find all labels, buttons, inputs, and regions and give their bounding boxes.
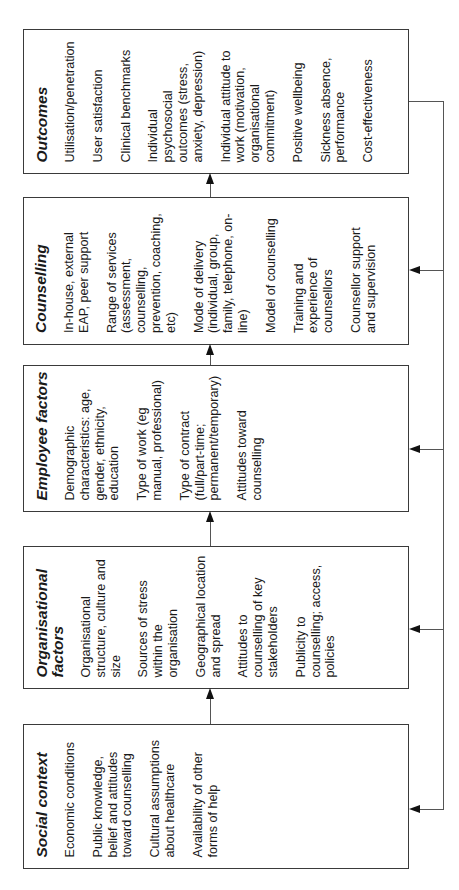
employee-factors-content: Employee factors Demographic characteris… (23, 365, 409, 512)
employee-factors-item: Attitudes toward counselling (234, 373, 264, 500)
outcomes-item: Clinical benchmarks (118, 37, 133, 162)
counselling-item: Range of services (assessment, counselli… (105, 205, 179, 333)
outcomes-item: Individual attitude to work (motivation,… (218, 37, 277, 162)
arrowhead-up-icon (206, 688, 214, 699)
organisational-factors-item: Organisational structure, culture and si… (78, 554, 122, 677)
employee-factors-title: Employee factors (33, 373, 49, 500)
arrowhead-left-icon (409, 805, 420, 813)
outcomes-item: User satisfaction (90, 37, 105, 162)
arrowhead-left-icon (409, 625, 420, 633)
organisational-factors-title: Organisational factors (33, 577, 65, 677)
social-context-item: Availability of other forms of help (190, 732, 220, 857)
outcomes-item: Cost-effectiveness (360, 37, 375, 162)
feedback-edge-to-organisational (419, 629, 444, 630)
social-context-box: Social context Economic conditions Publi… (23, 724, 409, 869)
edge-organisational-to-employee (210, 520, 211, 546)
social-context-item: Public knowledge, belief and attitudes t… (90, 732, 134, 857)
feedback-edge-to-employee (419, 449, 444, 450)
arrowhead-up-icon (206, 511, 214, 522)
counselling-item: Model of counselling (264, 205, 279, 333)
counselling-item: In-house, external EAP, peer support (62, 205, 92, 333)
organisational-factors-item: Sources of stress within the organisatio… (135, 554, 179, 677)
organisational-factors-box: Organisational factors Organisational st… (23, 546, 409, 689)
organisational-factors-item: Geographical location and spread (193, 554, 223, 677)
counselling-item: Training and experience of counsellors (292, 205, 336, 333)
organisational-factors-content: Organisational factors Organisational st… (23, 546, 409, 689)
counselling-item: Counsellor support and supervision (349, 205, 379, 333)
feedback-edge-to-counselling (419, 270, 444, 271)
counselling-box: Counselling In-house, external EAP, peer… (23, 197, 409, 345)
counselling-content: Counselling In-house, external EAP, peer… (23, 197, 409, 345)
edge-counselling-to-outcomes (210, 182, 211, 197)
outcomes-item: Sickness absence, performance (318, 37, 348, 162)
arrowhead-left-icon (409, 266, 420, 274)
organisational-factors-item: Publicity to counselling; access, polici… (293, 554, 337, 677)
social-context-content: Social context Economic conditions Publi… (23, 724, 409, 869)
feedback-line-from-outcomes (409, 101, 444, 102)
feedback-edge-to-social (419, 809, 444, 810)
edge-social-to-organisational (210, 697, 211, 724)
arrowhead-up-icon (206, 173, 214, 184)
outcomes-item: Individual psychosocial outcomes (stress… (145, 37, 204, 162)
employee-factors-item: Demographic characteristics: age, gender… (62, 373, 121, 500)
arrowhead-left-icon (409, 445, 420, 453)
social-context-item: Economic conditions (62, 732, 77, 857)
social-context-item: Cultural assumptions about healthcare (147, 732, 177, 857)
social-context-title: Social context (33, 732, 49, 857)
outcomes-box: Outcomes Utilisation/penetration User sa… (23, 29, 409, 174)
arrowhead-up-icon (206, 344, 214, 355)
outcomes-title: Outcomes (33, 37, 49, 162)
counselling-title: Counselling (33, 205, 49, 333)
feedback-line-vertical (443, 101, 444, 810)
outcomes-item: Positive wellbeing (290, 37, 305, 162)
employee-factors-box: Employee factors Demographic characteris… (23, 365, 409, 512)
employee-factors-item: Type of contract (full/part-time; perman… (177, 373, 221, 500)
employee-factors-item: Type of work (eg manual, professional) (134, 373, 164, 500)
outcomes-content: Outcomes Utilisation/penetration User sa… (23, 29, 409, 174)
counselling-item: Mode of delivery (individual, group, fam… (192, 205, 251, 333)
outcomes-item: Utilisation/penetration (62, 37, 77, 162)
organisational-factors-item: Attitudes to counselling of key stakehol… (235, 554, 279, 677)
